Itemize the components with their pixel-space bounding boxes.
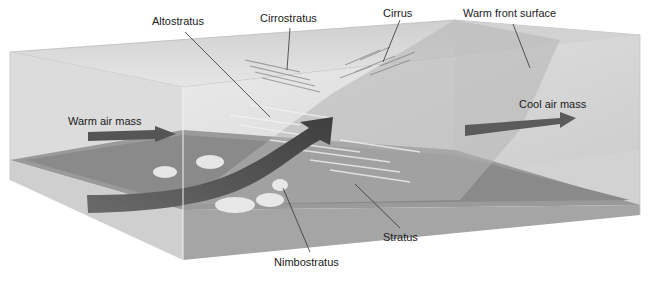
label-nimbostratus: Nimbostratus [274, 256, 339, 268]
diagram-graphic [0, 0, 653, 281]
label-stratus: Stratus [383, 231, 418, 243]
label-altostratus: Altostratus [152, 15, 204, 27]
label-cirrostratus: Cirrostratus [260, 12, 317, 24]
label-warm-air-mass: Warm air mass [68, 115, 142, 127]
warm-front-diagram: Altostratus Cirrostratus Cirrus Warm fro… [0, 0, 653, 281]
label-cool-air-mass: Cool air mass [519, 98, 586, 110]
label-cirrus: Cirrus [383, 7, 412, 19]
label-warm-front-surface: Warm front surface [463, 7, 556, 19]
